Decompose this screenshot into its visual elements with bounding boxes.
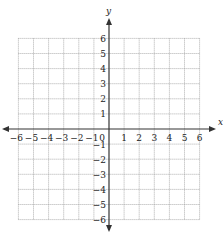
y-tick-label: −6 bbox=[93, 215, 107, 225]
x-tick-labels: −6−5−4−3−2−1123456 bbox=[10, 133, 203, 143]
axes bbox=[2, 18, 216, 232]
x-tick-label: 5 bbox=[182, 133, 188, 143]
y-axis-label: y bbox=[105, 6, 112, 16]
y-tick-label: −4 bbox=[93, 185, 107, 195]
coordinate-plane: x y 0 −6−5−4−3−2−1123456 654321−1−2−3−4−… bbox=[0, 0, 223, 234]
x-axis-right-arrow-icon bbox=[209, 126, 216, 132]
x-tick-label: −6 bbox=[10, 133, 24, 143]
y-tick-label: −1 bbox=[93, 140, 106, 150]
y-tick-label: 6 bbox=[100, 34, 106, 44]
y-tick-label: 5 bbox=[100, 49, 106, 59]
y-tick-label: −3 bbox=[93, 170, 107, 180]
x-tick-label: −3 bbox=[55, 133, 69, 143]
x-tick-label: 2 bbox=[136, 133, 142, 143]
x-tick-label: −5 bbox=[25, 133, 39, 143]
x-tick-label: 3 bbox=[151, 133, 157, 143]
y-tick-label: 3 bbox=[100, 79, 106, 89]
x-tick-label: 1 bbox=[121, 133, 127, 143]
x-tick-label: 6 bbox=[197, 133, 203, 143]
y-tick-label: 2 bbox=[100, 94, 106, 104]
y-tick-label: 1 bbox=[100, 109, 106, 119]
x-axis-left-arrow-icon bbox=[2, 126, 9, 132]
x-tick-label: −2 bbox=[70, 133, 83, 143]
y-tick-label: 4 bbox=[100, 64, 106, 74]
x-axis-label: x bbox=[218, 117, 223, 127]
y-tick-label: −2 bbox=[93, 155, 106, 165]
y-axis-up-arrow-icon bbox=[106, 18, 112, 25]
x-tick-label: 4 bbox=[167, 133, 173, 143]
y-axis-down-arrow-icon bbox=[106, 225, 112, 232]
x-tick-label: −4 bbox=[40, 133, 54, 143]
y-tick-label: −5 bbox=[93, 200, 107, 210]
